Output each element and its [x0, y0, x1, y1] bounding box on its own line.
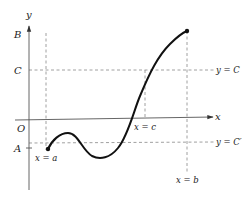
x-axis: [15, 117, 213, 120]
axes: [15, 26, 213, 190]
origin-label: O: [17, 123, 25, 134]
y-eq-c-label: y = C: [215, 65, 240, 75]
level-B-label: B: [13, 29, 21, 40]
guide-lines: [29, 31, 214, 172]
y-axis-label: y: [25, 9, 32, 20]
function-curve: [48, 31, 187, 158]
x-eq-c-label: x = c: [134, 122, 156, 132]
level-C-label: C: [14, 65, 22, 76]
curve-start-point: [46, 147, 50, 151]
function-diagram: y x O B C A y = C y = C′ x = a x = c x =…: [0, 0, 242, 198]
x-eq-b-label: x = b: [176, 175, 199, 185]
level-A-label: A: [13, 143, 21, 154]
x-axis-label: x: [215, 111, 221, 122]
y-eq-c-prime-label: y = C′: [215, 137, 242, 147]
curve-end-point: [185, 29, 189, 33]
x-eq-a-label: x = a: [35, 153, 57, 163]
